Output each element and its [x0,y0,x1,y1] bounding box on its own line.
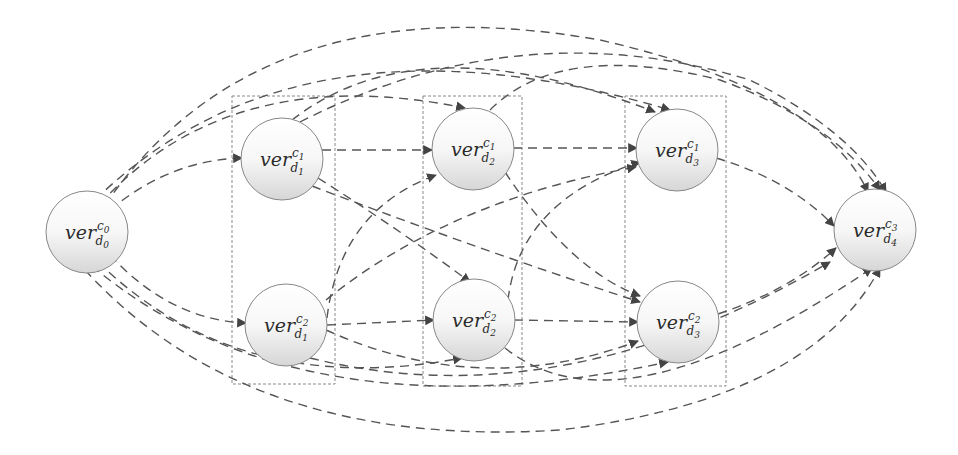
dag-diagram [0,0,958,455]
edge-d0c0-d1c1 [110,158,242,210]
edge-d1c2-d2c2 [327,320,434,325]
edge-d1c1-d4c3 [300,53,886,192]
edges [85,27,886,432]
node-d2c1[interactable] [432,108,514,190]
edge-d2c2-d3c1 [508,162,640,300]
edge-d2c1-d3c2 [505,172,640,296]
edge-d1c1-d2c2 [318,178,470,282]
edge-d0c0-d3c1 [95,71,670,200]
node-d3c2[interactable] [637,281,719,363]
edge-d3c2-d4c3 [718,248,836,314]
node-d0c0[interactable] [46,191,128,273]
edge-d2c2-d3c2 [514,320,638,322]
node-d1c1[interactable] [241,118,323,200]
node-d1c2[interactable] [245,284,327,366]
edge-d3c1-d4c3 [716,158,834,226]
edge-d0c0-d3c2 [92,266,668,386]
node-d2c2[interactable] [433,279,515,361]
node-d3c1[interactable] [636,109,718,191]
nodes [46,108,916,366]
node-d4c3[interactable] [834,189,916,271]
